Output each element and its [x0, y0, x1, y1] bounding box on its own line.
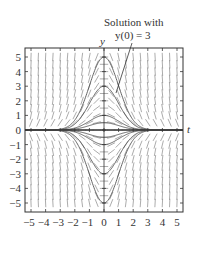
slope-segment	[38, 148, 39, 156]
slope-segment	[133, 75, 134, 83]
slope-segment	[94, 98, 100, 104]
slope-segment	[52, 162, 53, 170]
slope-segment	[51, 119, 55, 126]
slope-segment	[176, 148, 177, 156]
slope-segment	[125, 170, 127, 178]
slope-segment	[147, 170, 148, 178]
slope-segment	[38, 104, 39, 112]
slope-segment	[162, 82, 163, 90]
y-tick-label: 4	[16, 66, 22, 78]
y-tick-label: −2	[9, 153, 21, 165]
slope-segment	[95, 60, 98, 68]
slope-segment	[60, 60, 61, 68]
slope-segment	[67, 184, 68, 192]
slope-segment	[110, 192, 113, 200]
y-tick-label: −5	[9, 197, 21, 209]
slope-segment	[133, 53, 134, 61]
slope-segment	[67, 162, 68, 170]
slope-segment	[140, 82, 141, 90]
slope-segment	[86, 112, 92, 118]
x-tick-label: 5	[174, 216, 180, 228]
slope-segment	[38, 97, 39, 105]
y-tick-label: 0	[16, 124, 22, 136]
slope-segment	[95, 192, 98, 200]
slope-segment	[176, 140, 178, 148]
slope-segment	[38, 162, 39, 170]
x-tick-label: −5	[23, 216, 35, 228]
slope-segment	[45, 155, 46, 163]
slope-segment	[67, 75, 68, 83]
slope-segment	[147, 155, 148, 163]
slope-segment	[86, 142, 92, 148]
slope-segment	[147, 104, 149, 112]
slope-segment	[169, 75, 170, 83]
slope-segment	[155, 177, 156, 185]
slope-segment	[155, 75, 156, 83]
slope-segment	[67, 97, 69, 105]
slope-segment	[147, 162, 148, 170]
slope-segment	[81, 192, 82, 200]
slope-segment	[81, 170, 83, 178]
slope-segment	[66, 104, 68, 112]
slope-segment	[132, 89, 134, 97]
slope-segment	[169, 111, 171, 119]
slope-segment	[95, 75, 99, 82]
slope-segment	[162, 155, 163, 163]
slope-segment	[93, 106, 100, 111]
slope-segment	[60, 199, 61, 207]
slope-segment	[147, 184, 148, 192]
x-tick-label: 1	[116, 216, 122, 228]
slope-segment	[147, 192, 148, 200]
slope-segment	[118, 184, 120, 192]
slope-segment	[60, 89, 61, 97]
slope-segment	[53, 67, 54, 75]
slope-segment	[31, 97, 32, 105]
slope-segment	[161, 119, 165, 127]
slope-segment	[125, 162, 127, 170]
slope-segment	[140, 75, 141, 83]
slope-segment	[53, 60, 54, 68]
slope-segment	[45, 170, 46, 178]
x-tick-label: 2	[130, 216, 136, 228]
slope-segment	[60, 67, 61, 75]
slope-segment	[67, 177, 68, 185]
slope-segment	[155, 67, 156, 75]
slope-segment	[116, 112, 122, 118]
slope-segment	[177, 162, 178, 170]
slope-segment	[44, 134, 48, 142]
slope-segment	[88, 177, 90, 185]
slope-segment	[81, 82, 83, 90]
slope-segment	[117, 90, 120, 98]
slope-segment	[117, 177, 119, 185]
slope-segment	[132, 104, 135, 112]
slope-segment	[95, 199, 98, 207]
slope-segment	[168, 133, 171, 141]
slope-segment	[140, 53, 141, 61]
slope-segment	[154, 104, 156, 112]
slope-segment	[74, 155, 76, 163]
slope-segment	[45, 148, 46, 156]
slope-segment	[162, 89, 163, 97]
slope-segment	[125, 177, 127, 185]
slope-segment	[177, 89, 178, 97]
slope-segment	[177, 82, 178, 90]
slope-segment	[154, 148, 156, 156]
y-tick-label: 5	[16, 51, 22, 63]
slope-segment	[81, 184, 82, 192]
slope-segment	[89, 199, 91, 207]
slope-segment	[74, 97, 76, 105]
slope-segment	[52, 111, 54, 119]
slope-segment	[53, 177, 54, 185]
slope-segment	[109, 177, 113, 184]
slope-segment	[177, 155, 178, 163]
slope-segment	[59, 111, 62, 119]
slope-segment	[133, 177, 134, 185]
slope-segment	[60, 53, 61, 61]
slope-segment	[88, 163, 91, 171]
slope-segment	[169, 148, 170, 156]
x-tick-labels: −5−4−3−2−1012345	[23, 216, 180, 228]
slope-segment	[74, 89, 76, 97]
slope-segment	[53, 192, 54, 200]
slope-segment	[132, 148, 135, 156]
slope-segment	[108, 149, 115, 154]
